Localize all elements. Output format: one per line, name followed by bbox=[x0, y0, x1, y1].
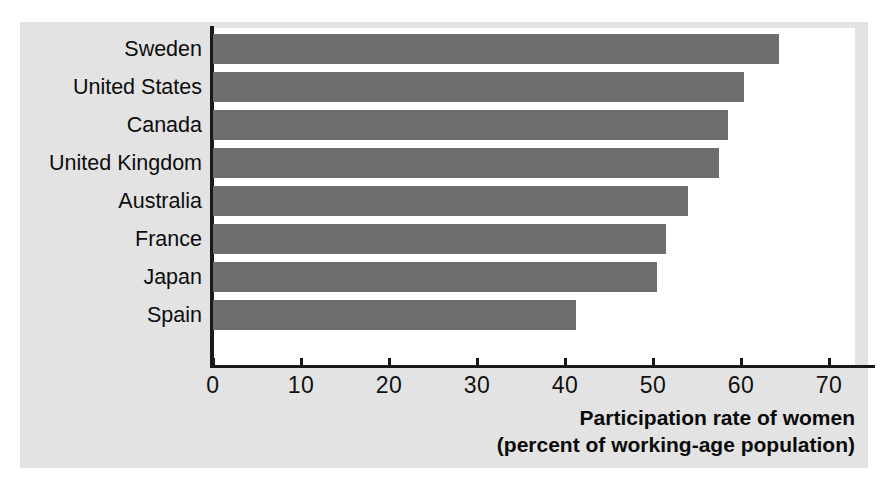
x-axis-title-line1: Participation rate of women bbox=[200, 404, 855, 431]
bar bbox=[213, 72, 744, 102]
category-label: United States bbox=[20, 72, 202, 102]
bar bbox=[213, 224, 666, 254]
x-tick-label: 20 bbox=[359, 372, 419, 399]
bar bbox=[213, 110, 728, 140]
x-tick-label: 40 bbox=[535, 372, 595, 399]
x-axis-title-line2: (percent of working-age population) bbox=[200, 431, 855, 458]
x-tick-label: 70 bbox=[799, 372, 859, 399]
bar bbox=[213, 34, 779, 64]
x-tick-mark bbox=[564, 358, 567, 368]
x-axis-title: Participation rate of women (percent of … bbox=[200, 404, 855, 458]
bar bbox=[213, 300, 576, 330]
category-label: Japan bbox=[20, 262, 202, 292]
bar bbox=[213, 262, 657, 292]
x-tick-mark bbox=[388, 358, 391, 368]
category-label: France bbox=[20, 224, 202, 254]
category-label: United Kingdom bbox=[20, 148, 202, 178]
x-tick-mark bbox=[300, 358, 303, 368]
x-tick-mark bbox=[740, 358, 743, 368]
category-label: Australia bbox=[20, 186, 202, 216]
x-tick-mark bbox=[652, 358, 655, 368]
bar bbox=[213, 148, 719, 178]
figure-panel: 010203040506070 SwedenUnited StatesCanad… bbox=[20, 22, 868, 468]
x-axis-line bbox=[210, 365, 875, 368]
bar bbox=[213, 186, 688, 216]
category-label: Sweden bbox=[20, 34, 202, 64]
x-tick-mark bbox=[828, 358, 831, 368]
x-tick-mark bbox=[476, 358, 479, 368]
x-tick-label: 30 bbox=[447, 372, 507, 399]
category-label: Spain bbox=[20, 300, 202, 330]
category-label: Canada bbox=[20, 110, 202, 140]
x-tick-label: 10 bbox=[271, 372, 331, 399]
x-tick-label: 60 bbox=[711, 372, 771, 399]
x-tick-mark bbox=[212, 358, 215, 368]
x-tick-label: 50 bbox=[623, 372, 683, 399]
x-tick-label: 0 bbox=[183, 372, 243, 399]
